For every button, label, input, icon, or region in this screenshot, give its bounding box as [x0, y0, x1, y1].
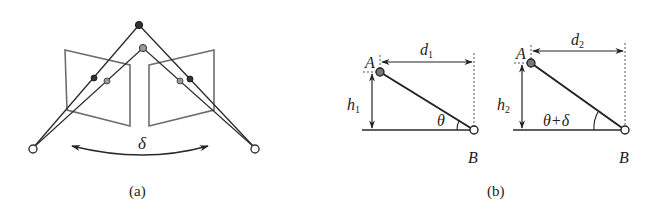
angle-arc-1	[457, 121, 459, 130]
label-b-2: B	[619, 149, 629, 166]
angle-arc-2	[594, 112, 598, 130]
ray-left-gray	[33, 48, 143, 148]
ray-right-gray	[143, 48, 255, 148]
left-camera-plane	[65, 50, 130, 126]
label-h2: h2	[497, 96, 510, 115]
label-theta: θ	[437, 112, 445, 129]
label-d1: d1	[420, 41, 433, 60]
label-theta-delta: θ+δ	[543, 112, 570, 129]
segment-ab-1	[380, 72, 474, 130]
point-a-1	[376, 68, 384, 76]
projection-right-gray	[177, 78, 183, 84]
label-a-1: A	[364, 54, 375, 71]
camera-center-right	[251, 145, 259, 153]
point-a-2	[527, 59, 535, 67]
figure-canvas: δ (a) A B d1 h1 θ A B d2 h2 θ+δ	[0, 0, 645, 216]
camera-center-left	[29, 145, 37, 153]
panel-b-right: A B d2 h2 θ+δ (b)	[487, 31, 629, 200]
ray-right-dark	[139, 25, 255, 148]
label-b-1: B	[468, 149, 478, 166]
panel-b-left: A B d1 h1 θ	[347, 41, 478, 166]
point-b-2	[621, 126, 629, 134]
point-dark-top	[135, 21, 142, 28]
point-gray-top	[139, 44, 146, 51]
panel-a: δ (a)	[29, 21, 259, 200]
projection-right-dark	[187, 76, 193, 82]
caption-b: (b)	[487, 183, 505, 200]
caption-a: (a)	[129, 183, 146, 200]
ray-left-dark	[33, 25, 139, 148]
projection-left-dark	[91, 75, 97, 81]
label-d2: d2	[571, 31, 584, 50]
label-a-2: A	[515, 45, 526, 62]
projection-left-gray	[104, 78, 110, 84]
point-b-1	[470, 126, 478, 134]
label-h1: h1	[347, 96, 360, 115]
delta-label: δ	[138, 134, 147, 153]
